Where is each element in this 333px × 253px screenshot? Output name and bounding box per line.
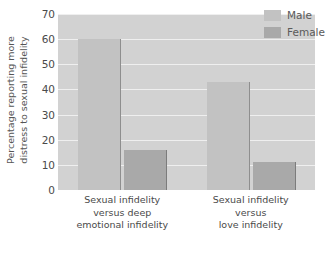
- bar-chart: Percentage reporting more distress to se…: [0, 0, 333, 253]
- y-axis-tick-label: 10: [30, 160, 55, 171]
- bar-group: [187, 14, 316, 190]
- x-axis-category-label-line: Sexual infidelity: [58, 194, 187, 207]
- legend-label: Male: [287, 10, 312, 21]
- legend-swatch-icon: [264, 10, 281, 21]
- y-axis-tick-label: 0: [30, 185, 55, 196]
- plot-area: [58, 14, 315, 190]
- x-axis-category-label: Sexual infidelityversus deepemotional in…: [58, 194, 187, 232]
- y-axis-tick-label: 30: [30, 109, 55, 120]
- y-axis-title-line-2: distress to sexual infidelity: [17, 36, 30, 164]
- bar-male[interactable]: [207, 82, 250, 190]
- x-axis-category-label-line: emotional infidelity: [58, 219, 187, 232]
- y-axis-tick-label: 70: [30, 9, 55, 20]
- y-axis-tick-label: 20: [30, 134, 55, 145]
- x-axis-category-label: Sexual infidelityversuslove infidelity: [187, 194, 316, 232]
- bar-male[interactable]: [78, 39, 121, 190]
- bar-female[interactable]: [124, 150, 167, 190]
- y-axis-tick-label: 40: [30, 84, 55, 95]
- x-axis-category-label-line: versus deep: [58, 207, 187, 220]
- legend-entry-female[interactable]: Female: [264, 27, 325, 38]
- bars-layer: [58, 14, 315, 190]
- y-axis-tick-labels: 010203040506070: [30, 14, 55, 190]
- legend-swatch-icon: [264, 27, 281, 38]
- legend-entry-male[interactable]: Male: [264, 10, 325, 21]
- legend: MaleFemale: [264, 10, 325, 38]
- y-axis-tick-label: 50: [30, 59, 55, 70]
- y-axis-tick-label: 60: [30, 34, 55, 45]
- legend-label: Female: [287, 27, 325, 38]
- bar-group: [58, 14, 187, 190]
- x-axis-category-label-line: love infidelity: [187, 219, 316, 232]
- y-axis-title: Percentage reporting more distress to se…: [0, 0, 34, 200]
- x-axis-tick-labels: Sexual infidelityversus deepemotional in…: [58, 194, 315, 249]
- bar-female[interactable]: [253, 162, 296, 190]
- x-axis-category-label-line: versus: [187, 207, 316, 220]
- y-axis-title-line-1: Percentage reporting more: [5, 36, 18, 164]
- x-axis-category-label-line: Sexual infidelity: [187, 194, 316, 207]
